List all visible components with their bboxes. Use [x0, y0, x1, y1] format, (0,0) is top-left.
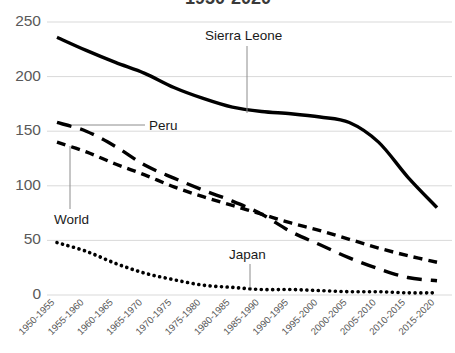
series-label-japan: Japan [229, 247, 266, 262]
line-chart: 1950-2020 250 200 150 100 50 0 1950-1955… [0, 0, 455, 353]
series-label-world: World [54, 212, 89, 227]
chart-background [0, 0, 455, 353]
series-label-peru: Peru [149, 118, 178, 133]
chart-container: 1950-2020 250 200 150 100 50 0 1950-1955… [0, 0, 455, 353]
y-tick-label: 100 [15, 176, 41, 193]
y-tick-label: 250 [15, 12, 41, 29]
y-tick-label: 50 [24, 230, 42, 247]
y-tick-label: 0 [32, 285, 41, 302]
y-tick-label: 150 [15, 121, 41, 138]
series-label-sierra-leone: Sierra Leone [205, 28, 282, 43]
chart-title: 1950-2020 [185, 0, 271, 8]
y-tick-label: 200 [15, 67, 41, 84]
